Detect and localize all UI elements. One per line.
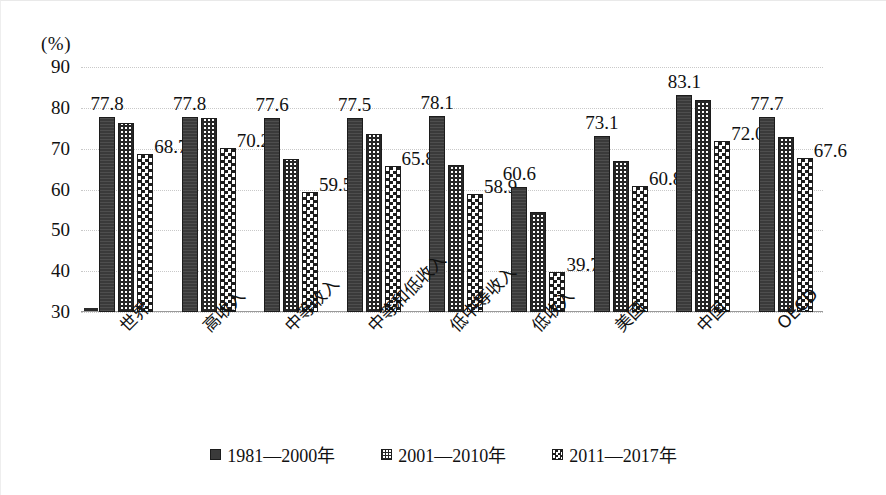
y-axis-tick-label: 70: [51, 137, 70, 159]
bar-series-1: 73.1: [594, 136, 610, 312]
bar-group: 77.868.7: [99, 67, 153, 312]
legend-label-series-2: 2001—2010年: [398, 441, 506, 467]
bar-value-label: 73.1: [585, 112, 618, 134]
bar-series-2: [448, 165, 464, 312]
bar-series-2: [613, 161, 629, 312]
legend-item-series-2: 2001—2010年: [381, 441, 506, 467]
bar-value-label: 60.6: [503, 163, 536, 185]
bar-value-label: 77.8: [173, 93, 206, 115]
y-axis-tick-label: 50: [51, 219, 70, 241]
chart-figure: (%) 3040506070809077.868.777.870.277.659…: [0, 0, 886, 495]
bar-series-2: [366, 134, 382, 312]
bar-series-1: 77.5: [347, 118, 363, 312]
legend-label-series-3: 2011—2017年: [569, 441, 676, 467]
legend-swatch-icon-series-3: [552, 449, 563, 460]
bar-series-2: [695, 100, 711, 312]
legend-item-series-3: 2011—2017年: [552, 441, 676, 467]
bar-series-1: 60.6: [511, 187, 527, 312]
y-axis-tick-label: 40: [51, 260, 70, 282]
bar-series-2: [283, 159, 299, 312]
bar-value-label: 77.6: [255, 94, 288, 116]
legend-label-series-1: 1981—2000年: [227, 441, 335, 467]
bar-group: 77.767.6: [759, 67, 813, 312]
bar-series-2: [778, 137, 794, 312]
bar-group: 83.172.0: [676, 67, 730, 312]
y-axis-unit-label: (%): [41, 33, 71, 55]
bar-series-3: 72.0: [714, 141, 730, 313]
bar-group: 77.659.5: [264, 67, 318, 312]
bar-series-2: [530, 212, 546, 312]
bar-series-3: 60.8: [632, 186, 648, 312]
bar-group: 77.870.2: [182, 67, 236, 312]
bar-series-1: 77.8: [182, 117, 198, 312]
y-axis-tick-label: 60: [51, 178, 70, 200]
bar-group: 73.160.8: [594, 67, 648, 312]
legend-swatch-icon-series-1: [210, 449, 221, 460]
chart-legend: 1981—2000年 2001—2010年 2011—2017年: [1, 441, 886, 467]
bar-series-1: 83.1: [676, 95, 692, 312]
bar-value-label: 77.8: [91, 93, 124, 115]
bar-value-label: 83.1: [668, 71, 701, 93]
bar-value-label: 78.1: [420, 92, 453, 114]
bar-value-label: 77.5: [338, 94, 371, 116]
bar-series-1: 77.8: [99, 117, 115, 312]
y-axis-tick-label: 30: [51, 301, 70, 323]
bar-series-2: [118, 123, 134, 312]
y-axis-tick-label: 90: [51, 56, 70, 78]
bar-value-label: 67.6: [814, 140, 847, 162]
bar-series-1: 77.6: [264, 118, 280, 312]
plot-area: 3040506070809077.868.777.870.277.659.577…: [81, 67, 823, 312]
bar-series-2: [201, 118, 217, 312]
legend-item-series-1: 1981—2000年: [210, 441, 335, 467]
bar-series-1: 77.7: [759, 117, 775, 312]
bar-value-label: 77.7: [750, 93, 783, 115]
y-axis-tick-label: 80: [51, 96, 70, 118]
bar-group: 77.565.8: [347, 67, 401, 312]
bar-series-3: 68.7: [137, 154, 153, 312]
legend-swatch-icon-series-2: [381, 449, 392, 460]
